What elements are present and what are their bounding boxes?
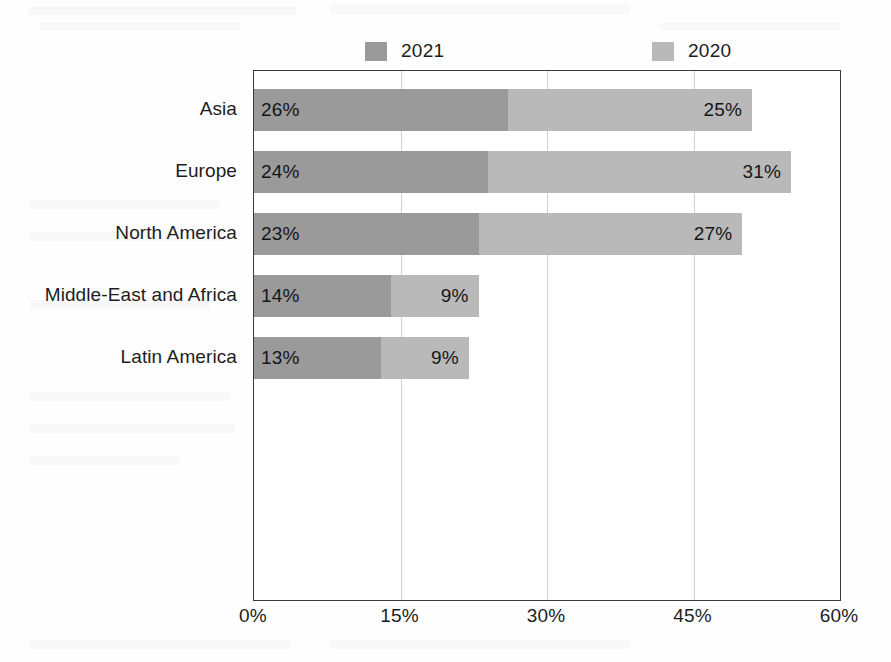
category-label: Middle-East and Africa	[45, 274, 237, 316]
chart-legend: 2021 2020	[0, 38, 891, 64]
category-label: North America	[115, 212, 237, 254]
bar-value-label: 9%	[441, 285, 469, 307]
bar-segment-2020[interactable]: 27%	[479, 213, 743, 255]
x-tick-label: 30%	[527, 605, 566, 627]
scan-artifact	[40, 22, 240, 30]
bar-value-label: 13%	[261, 347, 300, 369]
bar-segment-2021[interactable]: 26%	[254, 89, 508, 131]
bar-segment-2021[interactable]: 13%	[254, 337, 381, 379]
legend-label-2020: 2020	[688, 40, 731, 62]
category-label: Europe	[175, 150, 237, 192]
x-tick-label: 15%	[380, 605, 419, 627]
bar-row: 24%31%	[254, 151, 840, 193]
bar-segment-2020[interactable]: 9%	[381, 337, 469, 379]
bar-value-label: 31%	[743, 161, 782, 183]
bar-row: 23%27%	[254, 213, 840, 255]
bar-value-label: 24%	[261, 161, 300, 183]
bar-value-label: 14%	[261, 285, 300, 307]
x-tick-label: 60%	[820, 605, 859, 627]
x-tick-label: 45%	[673, 605, 712, 627]
bar-series-layer: 26%25%24%31%23%27%14%9%13%9%	[254, 71, 840, 600]
bar-value-label: 27%	[694, 223, 733, 245]
bar-row: 14%9%	[254, 275, 840, 317]
scan-artifact	[660, 22, 840, 30]
legend-swatch-2021	[365, 42, 387, 61]
bar-segment-2021[interactable]: 24%	[254, 151, 488, 193]
y-axis-category-labels: AsiaEuropeNorth AmericaMiddle-East and A…	[0, 70, 245, 599]
x-tick-label: 0%	[239, 605, 267, 627]
bar-row: 26%25%	[254, 89, 840, 131]
category-label: Asia	[200, 88, 237, 130]
chart-page: 2021 2020 AsiaEuropeNorth AmericaMiddle-…	[0, 0, 891, 662]
bar-row: 13%9%	[254, 337, 840, 379]
bar-segment-2021[interactable]: 23%	[254, 213, 479, 255]
x-axis-tick-labels: 0%15%30%45%60%	[253, 605, 839, 635]
bar-value-label: 25%	[703, 99, 742, 121]
scan-artifact	[30, 640, 290, 649]
legend-label-2021: 2021	[401, 40, 444, 62]
plot-area: 26%25%24%31%23%27%14%9%13%9%	[253, 70, 841, 601]
bar-value-label: 26%	[261, 99, 300, 121]
scan-artifact	[28, 6, 296, 15]
bar-segment-2021[interactable]: 14%	[254, 275, 391, 317]
bar-value-label: 9%	[431, 347, 459, 369]
legend-item-2020[interactable]: 2020	[652, 38, 731, 64]
bar-segment-2020[interactable]: 9%	[391, 275, 479, 317]
bar-segment-2020[interactable]: 31%	[488, 151, 791, 193]
legend-item-2021[interactable]: 2021	[365, 38, 444, 64]
legend-swatch-2020	[652, 42, 674, 61]
bar-segment-2020[interactable]: 25%	[508, 89, 752, 131]
scan-artifact	[330, 640, 630, 649]
bar-value-label: 23%	[261, 223, 300, 245]
scan-artifact	[330, 5, 630, 14]
category-label: Latin America	[121, 336, 237, 378]
